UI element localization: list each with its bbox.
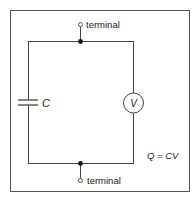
bottom-node-dot xyxy=(78,161,83,166)
top-terminal-icon xyxy=(79,23,83,27)
bottom-terminal-icon xyxy=(79,179,83,183)
circuit-diagram: C V terminal terminal Q = CV xyxy=(0,0,195,204)
capacitor-label: C xyxy=(42,97,50,109)
equation-label: Q = CV xyxy=(147,150,180,161)
capacitor-symbol xyxy=(18,100,38,105)
top-terminal-label: terminal xyxy=(86,19,120,30)
top-node-dot xyxy=(78,39,83,44)
bottom-terminal-label: terminal xyxy=(87,175,121,186)
outer-frame xyxy=(11,11,190,192)
